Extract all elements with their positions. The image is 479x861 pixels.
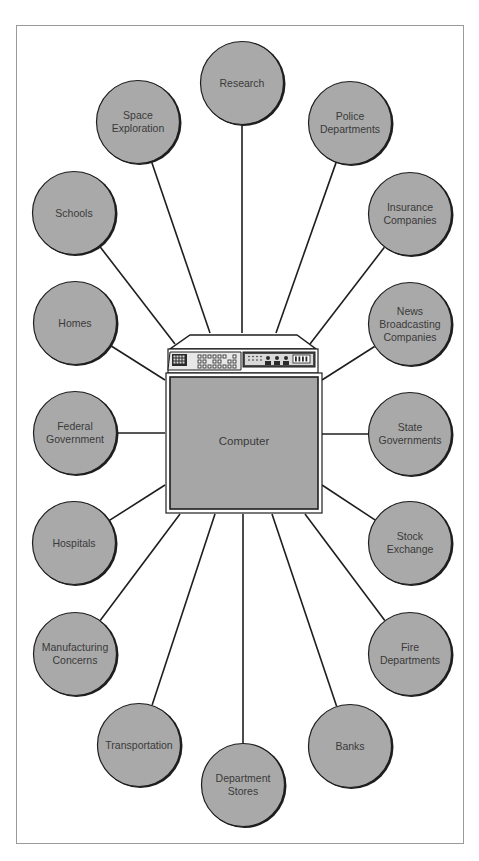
- connector-hospitals: [109, 485, 165, 520]
- node-manufacturing-concerns: [34, 613, 119, 698]
- node-hospitals: [33, 502, 118, 587]
- connector-homes: [110, 345, 165, 380]
- node-transportation: [98, 704, 183, 789]
- node-federal-government: [34, 392, 119, 477]
- node-state-governments: [369, 393, 454, 478]
- node-banks: [309, 705, 394, 790]
- node-stock-exchange: [369, 502, 454, 587]
- node-research: [201, 42, 286, 127]
- switch-bank-icon: [293, 355, 310, 363]
- computer-lid: [170, 335, 316, 349]
- node-news-broadcasting-companies: [369, 283, 454, 368]
- node-insurance-companies: [369, 173, 454, 258]
- connector-police-departments: [276, 163, 336, 333]
- keypad-icon: [172, 354, 187, 366]
- connector-transportation: [152, 514, 215, 705]
- node-schools: [33, 172, 118, 257]
- node-fire-departments: [369, 613, 454, 698]
- node-police-departments: [309, 82, 394, 167]
- node-space-exploration: [97, 81, 182, 166]
- node-homes: [34, 282, 119, 367]
- connector-news-broadcasting-companies: [322, 347, 375, 380]
- connector-stock-exchange: [322, 485, 375, 520]
- node-department-stores: [202, 744, 287, 829]
- connector-space-exploration: [152, 162, 210, 333]
- computer-label: Computer: [176, 376, 312, 506]
